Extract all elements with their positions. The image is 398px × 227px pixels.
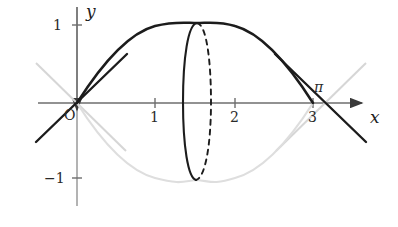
x-tick-label-1: 1 — [150, 110, 159, 124]
y-tick-label-1: 1 — [53, 18, 62, 32]
x-tick-label-2: 2 — [230, 110, 239, 124]
tangent-line-neg-sin-at-pi — [276, 63, 366, 151]
pi-label: π — [314, 80, 323, 94]
tangent-line-neg-sin-at-zero — [36, 63, 126, 151]
x-tick-label-3: 3 — [308, 110, 317, 124]
plot-svg — [0, 0, 398, 227]
figure-canvas: y x 1 −1 O 1 2 3 π — [0, 0, 398, 227]
cross-section-ellipse-front — [183, 23, 197, 180]
curve-sine — [77, 23, 313, 103]
origin-label: O — [64, 108, 75, 122]
y-tick-label-minus-1: −1 — [44, 171, 65, 185]
x-axis-label: x — [370, 109, 380, 126]
cross-section-ellipse-back — [196, 23, 211, 180]
y-axis-label: y — [86, 3, 96, 20]
curve-negative-sine — [77, 103, 313, 182]
